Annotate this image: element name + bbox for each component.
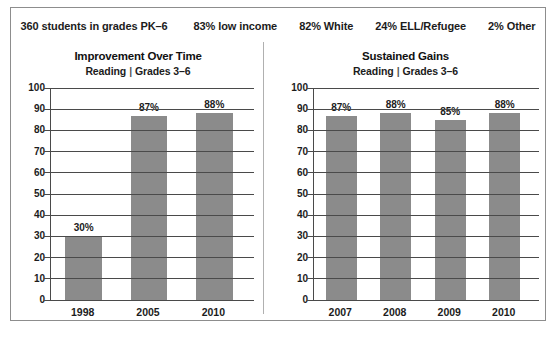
x-tick-label: 1998	[50, 302, 115, 320]
panel-title-left: Improvement Over Time	[13, 50, 263, 62]
axis-tick-mark	[307, 300, 314, 301]
panel-subject-left: Reading	[85, 65, 126, 77]
panel-divider	[263, 42, 264, 314]
figure-container: 360 students in grades PK–6 83% low inco…	[10, 7, 546, 321]
axis-tick-mark	[44, 109, 51, 110]
bar-value-label: 87%	[136, 102, 162, 114]
axis-tick-mark	[44, 257, 51, 258]
axis-tick-mark	[532, 278, 539, 279]
bar-value-label: 30%	[71, 222, 97, 234]
x-tick-label: 2009	[422, 302, 477, 320]
y-tick-label: 100	[291, 83, 308, 93]
axis-tick-mark	[532, 257, 539, 258]
gridline	[51, 194, 247, 195]
axis-tick-mark	[307, 257, 314, 258]
axis-tick-mark	[307, 215, 314, 216]
bar: 88%	[380, 113, 411, 300]
axis-tick-mark	[247, 215, 254, 216]
axis-tick-mark	[247, 151, 254, 152]
stat-white: 82% White	[299, 20, 353, 32]
gridline	[314, 194, 532, 195]
y-axis-labels-right: 1009080706050403020100	[282, 88, 308, 300]
axis-tick-mark	[247, 130, 254, 131]
panel-subject-right: Reading	[353, 65, 394, 77]
gridline	[314, 109, 532, 110]
bar: 88%	[489, 113, 520, 300]
bar: 30%	[65, 236, 102, 300]
stat-other: 2% Other	[488, 20, 536, 32]
axis-tick-mark	[532, 300, 539, 301]
axis-tick-mark	[532, 194, 539, 195]
stats-strip: 360 students in grades PK–6 83% low inco…	[11, 16, 545, 36]
gridline	[51, 88, 247, 89]
axis-tick-mark	[44, 130, 51, 131]
axis-tick-mark	[247, 257, 254, 258]
axis-tick-mark	[247, 300, 254, 301]
gridline	[51, 236, 247, 237]
axis-tick-mark	[532, 151, 539, 152]
gridline	[314, 215, 532, 216]
stat-low-income: 83% low income	[194, 20, 278, 32]
axis-tick-mark	[532, 172, 539, 173]
gridline	[314, 151, 532, 152]
gridline	[51, 172, 247, 173]
y-axis-labels-left: 1009080706050403020100	[19, 88, 45, 300]
plot-area-left: 1009080706050403020100 30%87%88% 1998200…	[13, 88, 263, 320]
stat-enrollment: 360 students in grades PK–6	[20, 20, 167, 32]
stat-ell-refugee: 24% ELL/Refugee	[375, 20, 466, 32]
x-tick-label: 2005	[115, 302, 180, 320]
axis-tick-mark	[247, 109, 254, 110]
axis-tick-mark	[532, 215, 539, 216]
plot-area-right: 1009080706050403020100 87%88%85%88% 2007…	[266, 88, 545, 320]
y-tick-label: 100	[28, 83, 45, 93]
x-tick-label: 2007	[313, 302, 368, 320]
gridline	[51, 130, 247, 131]
axis-tick-mark	[307, 236, 314, 237]
plot-canvas-left: 30%87%88%	[50, 88, 247, 301]
axis-tick-mark	[307, 172, 314, 173]
axis-tick-mark	[307, 194, 314, 195]
x-tick-label: 2008	[368, 302, 423, 320]
panel-title-right: Sustained Gains	[266, 50, 545, 62]
panel-grades-left: Grades 3–6	[135, 65, 191, 77]
chart-panel-sustained-gains: Sustained Gains Reading|Grades 3–6 10090…	[266, 38, 545, 320]
gridline	[51, 151, 247, 152]
bar: 88%	[196, 113, 233, 300]
gridline	[314, 278, 532, 279]
bar-value-label: 85%	[437, 106, 463, 118]
bar: 85%	[435, 120, 466, 300]
axis-tick-mark	[44, 88, 51, 89]
axis-tick-mark	[247, 194, 254, 195]
gridline	[314, 236, 532, 237]
axis-tick-mark	[247, 278, 254, 279]
axis-tick-mark	[44, 151, 51, 152]
bar-value-label: 87%	[328, 102, 354, 114]
gridline	[51, 215, 247, 216]
x-axis-labels-left: 199820052010	[50, 302, 246, 320]
axis-tick-mark	[532, 130, 539, 131]
plot-canvas-right: 87%88%85%88%	[313, 88, 532, 301]
bar: 87%	[131, 116, 168, 300]
gridline	[51, 109, 247, 110]
panel-subtitle-left: Reading|Grades 3–6	[13, 65, 263, 77]
axis-tick-mark	[44, 236, 51, 237]
chart-panel-improvement-over-time: Improvement Over Time Reading|Grades 3–6…	[13, 38, 263, 320]
axis-tick-mark	[532, 109, 539, 110]
axis-tick-mark	[44, 215, 51, 216]
gridline	[314, 88, 532, 89]
axis-tick-mark	[532, 88, 539, 89]
axis-tick-mark	[247, 236, 254, 237]
axis-tick-mark	[44, 194, 51, 195]
gridline	[51, 257, 247, 258]
axis-tick-mark	[307, 151, 314, 152]
axis-tick-mark	[247, 172, 254, 173]
axis-tick-mark	[44, 172, 51, 173]
x-tick-label: 2010	[181, 302, 246, 320]
gridline	[314, 130, 532, 131]
panel-grades-right: Grades 3–6	[402, 65, 458, 77]
x-axis-labels-right: 2007200820092010	[313, 302, 531, 320]
panel-subtitle-right: Reading|Grades 3–6	[266, 65, 545, 77]
axis-tick-mark	[307, 130, 314, 131]
axis-tick-mark	[307, 88, 314, 89]
x-tick-label: 2010	[477, 302, 532, 320]
